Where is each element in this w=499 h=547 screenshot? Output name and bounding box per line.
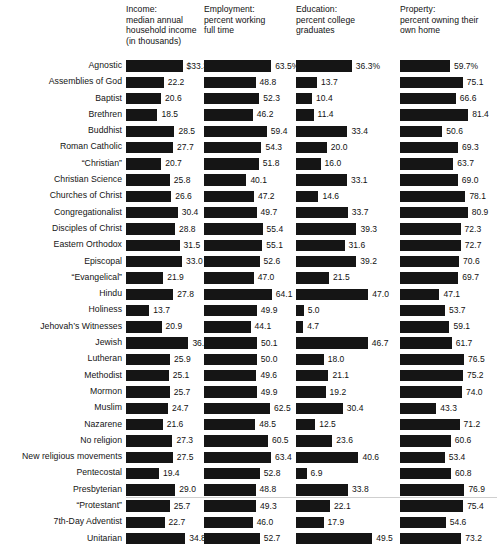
bar-cell-employment: 50.1 bbox=[204, 335, 292, 351]
bar-education bbox=[296, 77, 317, 88]
bar-cell-income: 20.9 bbox=[126, 319, 204, 335]
bar-cell-education: 22.1 bbox=[296, 498, 396, 514]
bar-value-education: 31.6 bbox=[349, 240, 366, 251]
bar-cell-employment: 46.0 bbox=[204, 514, 292, 530]
bar-value-property: 53.7 bbox=[449, 305, 466, 316]
bar-property bbox=[400, 174, 458, 185]
bar-value-education: 16.0 bbox=[325, 158, 342, 169]
bar-cell-property: 50.6 bbox=[400, 123, 499, 139]
row-label: Presbyterian bbox=[2, 483, 122, 495]
row-label-cell: “Protestant” bbox=[0, 498, 122, 514]
bar-employment bbox=[204, 272, 254, 283]
bar-property bbox=[400, 484, 464, 495]
bar-income bbox=[126, 272, 163, 283]
bar-property bbox=[400, 419, 460, 430]
bar-value-income: 29.0 bbox=[179, 484, 196, 495]
row-label: Holiness bbox=[2, 303, 122, 315]
bar-income bbox=[126, 109, 157, 120]
bar-income bbox=[126, 77, 164, 88]
bar-property bbox=[400, 533, 461, 544]
bar-employment bbox=[204, 468, 260, 479]
bottom-divider bbox=[126, 497, 497, 498]
bar-cell-education: 30.4 bbox=[296, 400, 396, 416]
bar-property bbox=[400, 93, 456, 104]
row-label-cell: New religious movements bbox=[0, 449, 122, 465]
bar-value-income: 33.0 bbox=[186, 256, 203, 267]
bar-income bbox=[126, 419, 163, 430]
bar-value-income: 27.7 bbox=[177, 142, 194, 153]
row-label-cell: Methodist bbox=[0, 368, 122, 384]
bar-employment bbox=[204, 289, 272, 300]
column-header-income: Income: median annual household income (… bbox=[126, 4, 202, 46]
chart-row: Presbyterian29.048.833.876.9 bbox=[0, 482, 499, 498]
bar-employment bbox=[204, 419, 255, 430]
bar-employment bbox=[204, 142, 261, 153]
bar-education bbox=[296, 272, 329, 283]
bar-education bbox=[296, 109, 314, 120]
bar-income bbox=[126, 126, 174, 137]
bar-cell-income: 27.8 bbox=[126, 286, 204, 302]
bar-value-education: 6.9 bbox=[311, 468, 323, 479]
bar-value-income: 28.8 bbox=[179, 224, 196, 235]
bar-cell-property: 72.7 bbox=[400, 237, 499, 253]
bar-employment bbox=[204, 77, 256, 88]
row-label-cell: 7th-Day Adventist bbox=[0, 514, 122, 530]
bar-value-property: 59.7% bbox=[454, 61, 478, 72]
bar-property bbox=[400, 289, 439, 300]
row-label-cell: Jehovah’s Witnesses bbox=[0, 319, 122, 335]
bar-income bbox=[126, 256, 182, 267]
bar-education bbox=[296, 337, 368, 348]
bar-value-education: 33.8 bbox=[352, 484, 369, 495]
bar-cell-employment: 49.9 bbox=[204, 302, 292, 318]
bar-employment bbox=[204, 484, 256, 495]
chart-row: Nazarene21.648.512.571.2 bbox=[0, 417, 499, 433]
bar-employment bbox=[204, 452, 271, 463]
bar-cell-education: 6.9 bbox=[296, 465, 396, 481]
bar-cell-education: 21.5 bbox=[296, 270, 396, 286]
bar-income bbox=[126, 533, 185, 544]
bar-value-education: 12.5 bbox=[319, 419, 336, 430]
bar-income bbox=[126, 370, 169, 381]
bar-education bbox=[296, 142, 327, 153]
chart-row: New religious movements27.563.440.653.4 bbox=[0, 449, 499, 465]
bar-employment bbox=[204, 305, 257, 316]
bar-value-employment: 54.3 bbox=[265, 142, 282, 153]
bar-education bbox=[296, 468, 307, 479]
row-label: Disciples of Christ bbox=[2, 222, 122, 234]
bar-value-employment: 50.0 bbox=[261, 354, 278, 365]
bar-education bbox=[296, 126, 347, 137]
bar-value-property: 54.6 bbox=[450, 517, 467, 528]
bar-cell-employment: 49.3 bbox=[204, 498, 292, 514]
bar-cell-employment: 55.1 bbox=[204, 237, 292, 253]
row-label-cell: Brethren bbox=[0, 107, 122, 123]
bar-employment bbox=[204, 174, 246, 185]
bar-value-employment: 40.1 bbox=[250, 175, 267, 186]
row-label-cell: Nazarene bbox=[0, 417, 122, 433]
bar-cell-employment: 60.5 bbox=[204, 433, 292, 449]
bar-cell-education: 40.6 bbox=[296, 449, 396, 465]
chart-row: Eastern Orthodox31.555.131.672.7 bbox=[0, 237, 499, 253]
bar-value-income: 30.4 bbox=[182, 207, 199, 218]
bar-value-property: 60.8 bbox=[455, 468, 472, 479]
row-label: Christian Science bbox=[2, 173, 122, 185]
row-label: Episcopal bbox=[2, 255, 122, 267]
bar-education bbox=[296, 256, 356, 267]
bar-education bbox=[296, 191, 318, 202]
row-label: New religious movements bbox=[2, 450, 122, 462]
bar-income bbox=[126, 142, 173, 153]
bar-cell-education: 17.9 bbox=[296, 514, 396, 530]
bar-property bbox=[400, 109, 468, 120]
bar-value-property: 73.2 bbox=[465, 533, 482, 544]
bar-value-employment: 49.6 bbox=[260, 370, 277, 381]
bar-cell-employment: 49.7 bbox=[204, 205, 292, 221]
row-label-cell: Roman Catholic bbox=[0, 139, 122, 155]
bar-value-employment: 49.7 bbox=[261, 207, 278, 218]
bar-income bbox=[126, 452, 173, 463]
bar-value-education: 36.3% bbox=[356, 61, 380, 72]
bar-income bbox=[126, 305, 149, 316]
row-label-cell: Jewish bbox=[0, 335, 122, 351]
column-header-education: Education: percent college graduates bbox=[296, 4, 394, 36]
bar-employment bbox=[204, 93, 259, 104]
bar-cell-employment: 48.8 bbox=[204, 482, 292, 498]
bar-cell-education: 33.8 bbox=[296, 482, 396, 498]
